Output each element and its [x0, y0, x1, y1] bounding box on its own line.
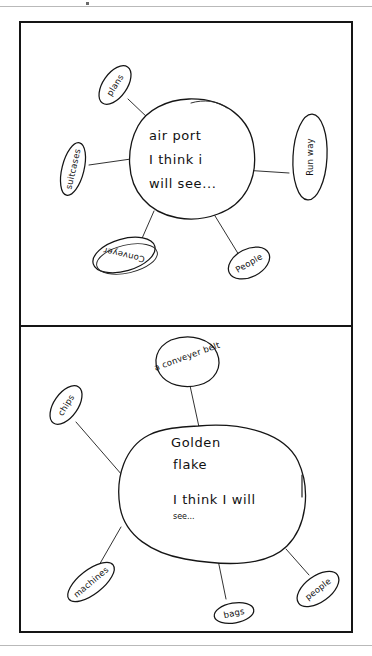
node-conveyer: Conveyer: [89, 231, 161, 280]
node-people: People: [223, 241, 275, 286]
golden-flake-bubble-map: Golden flake I think I will see... a con…: [21, 327, 351, 631]
node-suitcases: suitcases: [56, 140, 90, 198]
node-people: people: [291, 564, 345, 613]
connector-people: [286, 549, 309, 575]
node-runway-label: Run way: [305, 138, 315, 176]
connector-machines: [98, 527, 121, 567]
connector-chips: [76, 422, 122, 475]
center-text-line-2: I think i: [149, 152, 203, 167]
node-chips: chips: [44, 380, 89, 430]
scanned-page: air port I think i will see... plans sui…: [0, 0, 372, 656]
center-text-line-1: air port: [149, 128, 202, 143]
node-bags: bags: [213, 600, 256, 627]
center-text-line-3: will see...: [149, 176, 216, 191]
connector-conveyer-belt: [189, 381, 199, 427]
airport-bubble-map: air port I think i will see... plans sui…: [21, 23, 351, 325]
node-conveyer-belt: a conveyer belt: [153, 337, 222, 386]
page-bottom-rule: [0, 645, 372, 646]
page-top-rule: [0, 6, 372, 7]
center-subtext-line-1: I think I will: [173, 492, 256, 507]
center-subtext-line-2: see...: [173, 512, 195, 521]
node-plans: plans: [93, 60, 138, 110]
connector-people: [212, 211, 242, 260]
panel-airport: air port I think i will see... plans sui…: [21, 23, 351, 325]
panel-golden-flake: Golden flake I think I will see... a con…: [21, 327, 351, 631]
center-text-line-2: flake: [173, 457, 207, 472]
center-text-line-1: Golden: [171, 435, 221, 450]
node-machines: machines: [62, 555, 121, 608]
node-runway: Run way: [291, 113, 329, 201]
page-top-tick-mark: [86, 2, 89, 5]
